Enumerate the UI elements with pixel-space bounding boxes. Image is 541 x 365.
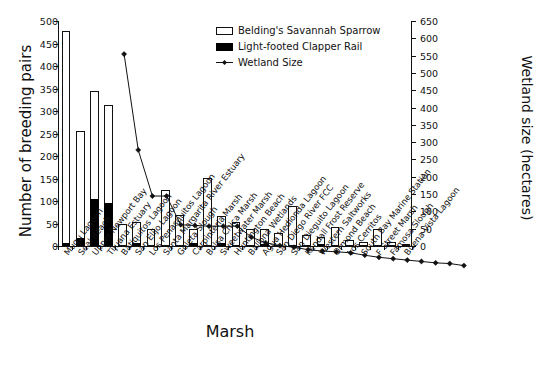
legend-item-label: Light-footed Clapper Rail xyxy=(238,40,362,54)
legend-item[interactable]: Wetland Size xyxy=(216,56,381,70)
x-tick-mark xyxy=(58,246,59,250)
x-axis-title: Marsh xyxy=(0,322,460,341)
legend-item-label: Wetland Size xyxy=(238,56,303,70)
filled-rect-swatch xyxy=(216,43,233,51)
wetland-size-marker[interactable] xyxy=(136,147,141,152)
legend-item[interactable]: Belding's Savannah Sparrow xyxy=(216,24,381,38)
legend-item-label: Belding's Savannah Sparrow xyxy=(238,24,381,38)
wetland-size-marker[interactable] xyxy=(405,257,410,262)
legend-item[interactable]: Light-footed Clapper Rail xyxy=(216,40,381,54)
wetland-size-marker[interactable] xyxy=(447,261,452,266)
wetland-size-marker[interactable] xyxy=(419,259,424,264)
chart-legend: Belding's Savannah SparrowLight-footed C… xyxy=(216,24,381,72)
wetland-size-marker[interactable] xyxy=(150,193,155,198)
figure-canvas: 050100150200250300350400450500 050100150… xyxy=(0,0,541,365)
wetland-size-marker[interactable] xyxy=(433,260,438,265)
open-rect-swatch xyxy=(216,27,233,35)
line-diamond-swatch xyxy=(216,59,233,67)
wetland-size-marker[interactable] xyxy=(461,263,466,268)
